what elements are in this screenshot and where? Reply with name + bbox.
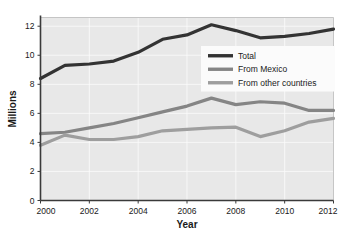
x-axis-title: Year [176,219,197,230]
legend-label-from-mexico: From Mexico [238,64,287,74]
chart-figure: 024681012 2000200220042006200820102012 M… [0,0,350,238]
y-tick-label-2: 2 [30,166,35,176]
line-chart: 024681012 2000200220042006200820102012 M… [0,0,350,238]
legend-label-total: Total [238,51,256,61]
legend-label-from-other-countries: From other countries [238,78,316,88]
x-axis-tick-labels: 2000200220042006200820102012 [37,206,338,216]
y-axis-title: Millions [7,90,18,128]
x-tick-label-2006: 2006 [178,206,197,216]
x-tick-label-2010: 2010 [275,206,294,216]
x-tick-label-2000: 2000 [37,206,56,216]
y-axis-tick-labels: 024681012 [25,21,35,205]
y-tick-label-10: 10 [25,50,35,60]
x-tick-label-2008: 2008 [226,206,245,216]
y-tick-label-8: 8 [30,79,35,89]
y-tick-label-4: 4 [30,137,35,147]
x-tick-label-2002: 2002 [80,206,99,216]
x-tick-label-2004: 2004 [129,206,148,216]
x-tick-label-2012: 2012 [319,206,338,216]
y-tick-label-0: 0 [30,196,35,206]
y-tick-label-12: 12 [25,21,35,31]
y-tick-label-6: 6 [30,108,35,118]
chart-legend: TotalFrom MexicoFrom other countries [201,46,335,92]
